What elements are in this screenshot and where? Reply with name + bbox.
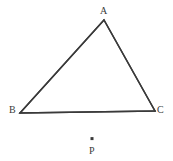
point-p-marker: [91, 137, 94, 140]
point-label-p: P: [89, 146, 95, 156]
vertex-label-b: B: [9, 105, 16, 115]
triangle-abc-shape: [20, 20, 155, 113]
triangle-diagram-svg: [0, 0, 173, 161]
vertex-label-a: A: [100, 6, 107, 16]
geometry-figure: A B C P: [0, 0, 173, 161]
edge-ca: [104, 20, 155, 111]
edge-bc: [20, 111, 155, 113]
edge-ab: [20, 20, 104, 113]
vertex-label-c: C: [157, 105, 164, 115]
